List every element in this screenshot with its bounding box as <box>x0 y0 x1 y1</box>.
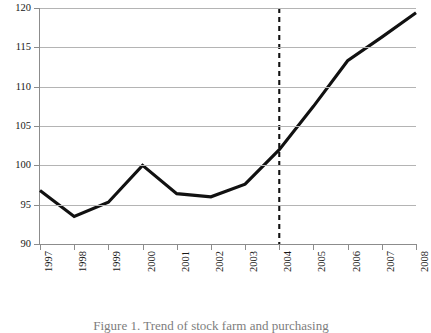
gridline-y-110 <box>40 87 416 88</box>
x-axis-label-2008: 2008 <box>420 251 431 272</box>
y-axis-label-95: 95 <box>21 199 32 210</box>
x-tick-2000 <box>143 244 144 250</box>
x-tick-2004 <box>279 244 280 250</box>
x-axis-label-2006: 2006 <box>352 251 363 272</box>
x-tick-2002 <box>211 244 212 250</box>
gridline-y-120 <box>40 8 416 9</box>
x-tick-1998 <box>74 244 75 250</box>
gridline-y-105 <box>40 126 416 127</box>
x-tick-2005 <box>313 244 314 250</box>
x-tick-2006 <box>348 244 349 250</box>
x-axis-label-2004: 2004 <box>283 251 294 272</box>
gridline-y-95 <box>40 205 416 206</box>
x-tick-2007 <box>382 244 383 250</box>
y-axis-label-100: 100 <box>15 160 31 171</box>
x-axis-label-2002: 2002 <box>215 251 226 272</box>
x-axis-label-1999: 1999 <box>112 251 123 272</box>
x-axis-label-2005: 2005 <box>317 251 328 272</box>
y-tick-110 <box>34 87 40 88</box>
x-tick-1997 <box>40 244 41 250</box>
y-axis-label-105: 105 <box>15 121 31 132</box>
figure-caption: Figure 1. Trend of stock farm and purcha… <box>0 318 422 333</box>
y-tick-115 <box>34 47 40 48</box>
x-axis-label-2007: 2007 <box>386 251 397 272</box>
x-tick-1999 <box>108 244 109 250</box>
x-axis-label-2003: 2003 <box>249 251 260 272</box>
y-tick-100 <box>34 165 40 166</box>
y-tick-105 <box>34 126 40 127</box>
y-axis-label-90: 90 <box>21 239 32 250</box>
gridline-y-115 <box>40 47 416 48</box>
x-tick-2008 <box>416 244 417 250</box>
gridline-y-100 <box>40 165 416 166</box>
series-line-index <box>40 13 416 217</box>
y-axis-label-120: 120 <box>15 3 31 14</box>
plot-area: 9095100105110115120199719981999200020012… <box>39 8 415 244</box>
x-axis-line <box>40 244 416 245</box>
y-axis-label-115: 115 <box>16 42 31 53</box>
x-axis-label-2001: 2001 <box>181 251 192 272</box>
x-tick-2003 <box>245 244 246 250</box>
y-tick-120 <box>34 8 40 9</box>
x-axis-label-1997: 1997 <box>44 251 55 272</box>
y-axis-label-110: 110 <box>16 81 31 92</box>
y-tick-95 <box>34 205 40 206</box>
x-axis-label-2000: 2000 <box>147 251 158 272</box>
x-tick-2001 <box>177 244 178 250</box>
x-axis-label-1998: 1998 <box>78 251 89 272</box>
